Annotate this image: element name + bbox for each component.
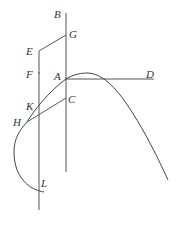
label-e: E [25, 45, 33, 57]
label-c: C [68, 93, 76, 105]
label-f: F [25, 68, 33, 80]
label-g: G [69, 28, 77, 40]
label-a: A [53, 70, 61, 82]
label-l: L [40, 177, 47, 189]
label-k: K [25, 100, 34, 112]
geometric-diagram: B G E F A D C K H L [0, 0, 179, 225]
label-b: B [54, 8, 61, 20]
segment-eg [39, 35, 66, 51]
label-d: D [145, 68, 154, 80]
curve [14, 73, 168, 192]
label-h: H [12, 116, 22, 128]
